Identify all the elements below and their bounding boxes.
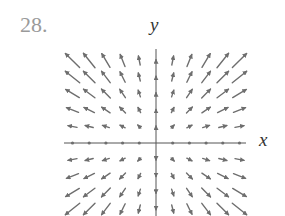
vector-dot bbox=[121, 141, 124, 144]
vector-arrow bbox=[67, 108, 79, 113]
vector-arrow bbox=[187, 158, 192, 161]
vector-arrow bbox=[68, 159, 77, 161]
vector-arrow bbox=[120, 107, 126, 113]
vector-arrow bbox=[83, 53, 95, 67]
vector-arrow bbox=[171, 125, 174, 128]
vector-arrow bbox=[187, 188, 193, 196]
vector-arrow bbox=[187, 204, 192, 214]
vector-arrow bbox=[84, 107, 94, 112]
vector-arrow bbox=[102, 188, 111, 197]
vector-arrow bbox=[187, 72, 192, 82]
vector-dot bbox=[71, 141, 74, 144]
vector-arrow bbox=[103, 125, 110, 127]
vector-arrow bbox=[84, 173, 94, 178]
vector-arrow bbox=[83, 71, 95, 83]
vector-arrow bbox=[172, 73, 174, 81]
vector-arrow bbox=[171, 107, 174, 112]
vector-arrow bbox=[203, 125, 210, 127]
vector-arrow bbox=[202, 203, 211, 214]
vector-arrow bbox=[202, 71, 211, 82]
vector-arrow bbox=[235, 126, 244, 128]
vector-arrow bbox=[66, 188, 80, 196]
vector-arrow bbox=[120, 188, 126, 196]
vector-arrow bbox=[202, 173, 210, 179]
vector-arrow bbox=[84, 89, 95, 98]
vector-arrow bbox=[233, 188, 247, 196]
vector-arrow bbox=[172, 56, 174, 65]
vector-arrow bbox=[202, 54, 210, 68]
vector-arrow bbox=[217, 71, 229, 83]
vector-arrow bbox=[68, 126, 77, 128]
vector-arrow bbox=[65, 71, 79, 83]
vector-dot bbox=[171, 141, 174, 144]
vector-arrow bbox=[138, 125, 141, 128]
vector-arrow bbox=[234, 174, 246, 179]
vector-field-plot bbox=[0, 0, 285, 216]
vector-arrow bbox=[138, 73, 140, 81]
vector-arrow bbox=[172, 189, 174, 196]
vector-arrow bbox=[85, 126, 93, 128]
vector-arrow bbox=[66, 89, 80, 97]
vector-arrow bbox=[172, 90, 174, 97]
vector-dot bbox=[104, 141, 107, 144]
vector-arrow bbox=[232, 203, 246, 215]
vector-arrow bbox=[102, 107, 110, 113]
vector-arrow bbox=[120, 72, 125, 82]
vector-arrow bbox=[138, 90, 140, 97]
vector-arrow bbox=[138, 158, 141, 161]
vector-arrow bbox=[217, 89, 228, 98]
vector-arrow bbox=[138, 173, 141, 178]
vector-arrow bbox=[187, 107, 193, 113]
vector-arrow bbox=[218, 173, 228, 178]
vector-arrow bbox=[102, 71, 111, 82]
vector-arrow bbox=[171, 173, 174, 178]
vector-arrow bbox=[102, 54, 110, 68]
vector-arrow bbox=[120, 55, 125, 67]
vector-arrow bbox=[102, 89, 111, 98]
vector-arrow bbox=[187, 89, 193, 97]
vector-arrow bbox=[120, 173, 126, 179]
vector-arrow bbox=[218, 107, 228, 112]
vector-arrow bbox=[217, 188, 228, 197]
vector-dot bbox=[205, 141, 208, 144]
vector-arrow bbox=[232, 53, 246, 67]
vector-arrow bbox=[172, 205, 174, 213]
vector-arrow bbox=[85, 159, 93, 161]
vector-arrow bbox=[202, 188, 211, 197]
vector-arrow bbox=[138, 189, 140, 196]
vector-arrow bbox=[120, 158, 125, 161]
vector-dot bbox=[238, 141, 241, 144]
vector-arrow bbox=[202, 107, 210, 113]
vector-dot bbox=[188, 141, 191, 144]
vector-arrow bbox=[219, 126, 227, 128]
vector-arrow bbox=[187, 55, 192, 67]
vector-arrow bbox=[120, 204, 125, 214]
vector-arrow bbox=[120, 89, 126, 97]
vector-arrow bbox=[234, 108, 246, 113]
vector-dot bbox=[88, 141, 91, 144]
vector-arrow bbox=[171, 158, 174, 161]
vector-arrow bbox=[102, 173, 110, 179]
vector-arrow bbox=[202, 89, 211, 98]
vector-arrow bbox=[84, 188, 95, 197]
vector-arrow bbox=[102, 203, 111, 214]
vector-arrow bbox=[120, 125, 125, 128]
vector-arrow bbox=[219, 159, 227, 161]
vector-dot bbox=[221, 141, 224, 144]
vector-arrow bbox=[203, 158, 210, 160]
vector-arrow bbox=[65, 53, 79, 67]
vector-dot bbox=[138, 141, 141, 144]
vector-arrow bbox=[217, 53, 229, 67]
vector-arrow bbox=[217, 203, 229, 215]
vector-arrow bbox=[103, 158, 110, 160]
vector-arrow bbox=[235, 159, 244, 161]
vector-arrow bbox=[138, 205, 140, 213]
vector-arrow bbox=[187, 125, 192, 128]
vector-arrow bbox=[67, 174, 79, 179]
vector-arrow bbox=[232, 71, 246, 83]
vector-arrow bbox=[187, 173, 193, 179]
vector-arrow bbox=[138, 56, 140, 65]
vector-arrow bbox=[138, 107, 141, 112]
vector-arrow bbox=[233, 89, 247, 97]
vector-arrow bbox=[65, 203, 79, 215]
